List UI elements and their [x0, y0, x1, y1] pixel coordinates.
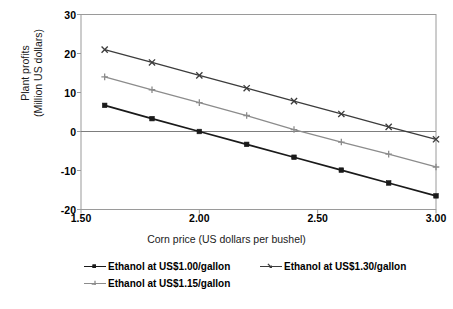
data-point-marker: [243, 112, 250, 119]
x-axis-tick-label: 1.50: [59, 212, 103, 224]
data-point-marker: [101, 74, 108, 81]
chart-figure: Plant profits (Million US dollars) 30201…: [0, 0, 453, 309]
series-1: [102, 47, 440, 143]
data-point-marker: [150, 116, 155, 121]
data-point-marker: [197, 129, 202, 134]
x-axis-tick-label: 2.50: [296, 212, 340, 224]
x-axis-tick-label: 2.00: [177, 212, 221, 224]
data-point-marker: [338, 139, 345, 146]
data-point-marker: [434, 194, 439, 199]
data-point-marker: [102, 103, 107, 108]
legend-marker-square-icon: [84, 261, 106, 272]
plot-frame: [81, 15, 436, 210]
legend-marker: [90, 262, 96, 268]
legend-marker: [90, 279, 96, 285]
legend-item-ethanol-130[interactable]: Ethanol at US$1.30/gallon: [260, 258, 436, 275]
legend-row-1: Ethanol at US$1.00/gallon Ethanol at US$…: [84, 258, 444, 275]
data-point-marker: [386, 181, 391, 186]
legend-row-2: Ethanol at US$1.15/gallon: [84, 275, 444, 292]
data-point-marker: [244, 142, 249, 147]
data-point-marker: [385, 151, 392, 158]
legend-marker: [266, 262, 272, 268]
data-point-marker: [149, 86, 156, 93]
series-line: [105, 50, 436, 140]
chart-legend: Ethanol at US$1.00/gallon Ethanol at US$…: [84, 258, 444, 292]
x-axis-tick-labels: 1.502.002.503.00: [0, 212, 453, 228]
legend-label-ethanol-115: Ethanol at US$1.15/gallon: [106, 278, 230, 289]
data-point-marker: [196, 99, 203, 106]
legend-item-ethanol-100[interactable]: Ethanol at US$1.00/gallon: [84, 258, 260, 275]
data-point-marker: [292, 155, 297, 160]
data-point-marker: [339, 168, 344, 173]
legend-label-ethanol-100: Ethanol at US$1.00/gallon: [106, 261, 230, 272]
legend-marker-cross-icon: [260, 261, 282, 272]
series-2: [101, 74, 439, 171]
data-point-marker: [433, 164, 440, 171]
x-axis-tick-label: 3.00: [414, 212, 453, 224]
series-0: [102, 103, 438, 198]
data-point-marker: [93, 264, 96, 267]
legend-item-ethanol-115[interactable]: Ethanol at US$1.15/gallon: [84, 275, 260, 292]
data-point-marker: [268, 263, 272, 267]
x-axis-title: Corn price (US dollars per bushel): [0, 233, 453, 245]
legend-marker-plus-icon: [84, 278, 106, 289]
legend-label-ethanol-130: Ethanol at US$1.30/gallon: [282, 261, 406, 272]
data-point-marker: [92, 280, 96, 284]
